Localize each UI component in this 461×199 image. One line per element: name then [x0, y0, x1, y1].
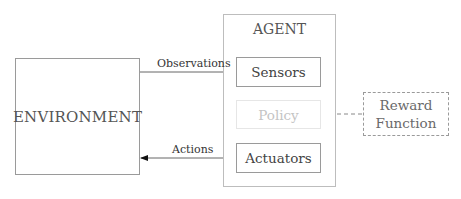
sensors-label: Sensors — [251, 64, 305, 80]
policy-label: Policy — [258, 107, 299, 123]
actions-label: Actions — [172, 143, 213, 156]
environment-label: ENVIRONMENT — [13, 108, 142, 126]
agent-title: AGENT — [223, 21, 336, 37]
actuators-box: Actuators — [236, 143, 321, 173]
reward-function-box: Reward Function — [363, 92, 449, 136]
actuators-label: Actuators — [245, 150, 311, 166]
reward-label-line1: Reward — [380, 96, 433, 114]
policy-box: Policy — [236, 100, 321, 129]
observations-label: Observations — [157, 57, 231, 70]
environment-box: ENVIRONMENT — [15, 58, 140, 175]
reward-label-line2: Function — [376, 114, 437, 132]
sensors-box: Sensors — [236, 57, 321, 87]
